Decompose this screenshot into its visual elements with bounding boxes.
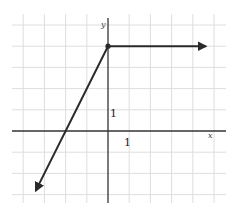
x-unit-tick-label: 1 (124, 136, 131, 149)
closed-dot-marker (105, 44, 110, 49)
y-unit-tick-label: 1 (110, 107, 117, 120)
x-axis-label: x (208, 131, 213, 140)
y-axis-label: y (100, 20, 106, 29)
graph-series (36, 44, 206, 191)
coordinate-plane: x y 1 1 (0, 0, 237, 217)
